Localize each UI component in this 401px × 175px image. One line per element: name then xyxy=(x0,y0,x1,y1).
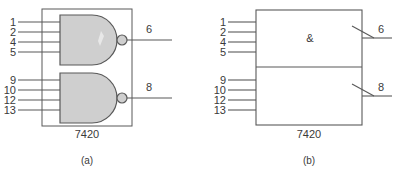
b-pin-label-5: 5 xyxy=(210,47,226,58)
diagram-b-chip-label: 7420 xyxy=(284,129,334,140)
b-negation-slash-pin-8 xyxy=(352,84,374,96)
pin-label-5: 5 xyxy=(0,47,16,58)
and-qualifying-symbol: & xyxy=(295,33,325,44)
top-nand-inversion-bubble xyxy=(117,35,127,45)
b-pin-label-6: 6 xyxy=(378,24,394,35)
pin-label-13: 13 xyxy=(0,105,16,116)
bottom-nand-inversion-bubble xyxy=(117,93,127,103)
top-nand-gate-body xyxy=(60,15,117,65)
b-negation-slash-pin-6 xyxy=(352,26,374,38)
b-pin-label-13: 13 xyxy=(210,105,226,116)
pin-label-8: 8 xyxy=(146,82,162,93)
diagram-a-caption: (a) xyxy=(62,156,112,166)
diagram-a-chip-label: 7420 xyxy=(62,129,112,140)
b-pin-label-8: 8 xyxy=(378,82,394,93)
bottom-nand-gate-body xyxy=(60,73,117,123)
figure-vector-layer xyxy=(0,0,401,175)
pin-label-6: 6 xyxy=(146,24,162,35)
logic-symbol-figure: 1 2 4 5 9 10 12 13 6 8 7420 (a) 1 2 4 5 … xyxy=(0,0,401,175)
diagram-b-caption: (b) xyxy=(284,156,334,166)
diagram-b-group xyxy=(228,10,392,125)
